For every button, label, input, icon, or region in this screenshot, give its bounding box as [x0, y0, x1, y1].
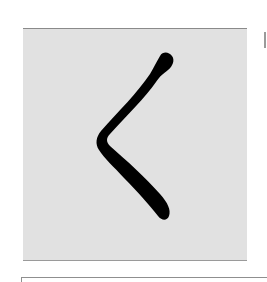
- bottom-tick: [21, 277, 22, 282]
- margin-mark: [264, 32, 266, 48]
- bottom-rule: [21, 277, 267, 278]
- ku-stroke: [97, 53, 174, 220]
- hiragana-ku-glyph: [0, 0, 267, 282]
